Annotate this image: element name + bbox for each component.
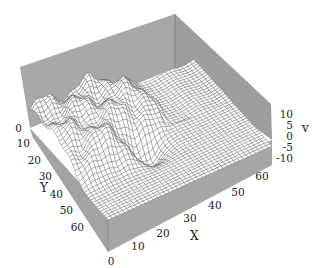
x-tick-label: 60 [255,170,268,182]
y-tick-label: 50 [60,204,73,216]
x-tick-label: 20 [156,227,169,239]
y-tick-label: 10 [17,137,30,149]
x-tick-label: 40 [208,199,221,211]
z-axis: 1050-5-10 [276,108,293,164]
x-tick-label: 10 [131,240,144,252]
y-tick-label: 20 [28,154,41,166]
y-tick-label: 60 [71,221,84,233]
y-tick-label: 40 [50,188,63,200]
surface-plot: 0102030405060 Y 0102030405060 X 1050-5-1… [0,0,321,268]
y-axis-label: Y [39,181,49,195]
x-tick-label: 0 [108,255,115,267]
y-tick-label: 0 [15,122,22,134]
x-tick-label: 50 [231,186,244,198]
x-axis-label: X [190,229,199,243]
x-tick-label: 30 [183,212,196,224]
z-axis-label: v [301,121,309,135]
z-tick-label: -10 [276,152,293,164]
